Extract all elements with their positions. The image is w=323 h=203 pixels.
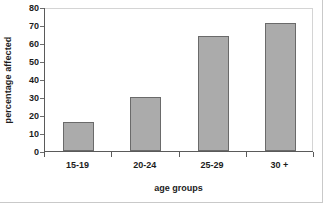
x-axis-tick-label: 20-24 <box>133 160 156 170</box>
y-axis-tick-label: 50 <box>29 57 39 67</box>
y-axis-tick-mark <box>40 8 44 9</box>
x-axis-tick-mark <box>246 152 247 157</box>
y-axis-tick-mark <box>40 44 44 45</box>
y-axis-tick-mark <box>40 80 44 81</box>
x-axis-tick-mark <box>313 152 314 157</box>
x-axis-tick-mark <box>179 152 180 157</box>
x-axis-tick-label: 25-29 <box>201 160 224 170</box>
y-axis-tick-labels: 01020304050607080 <box>16 0 42 160</box>
bar-chart: percentage affected 01020304050607080 ag… <box>0 0 323 203</box>
bar <box>198 36 229 151</box>
y-axis-tick-mark <box>40 98 44 99</box>
bar <box>265 23 296 151</box>
bar <box>63 122 94 151</box>
y-axis-tick-label: 80 <box>29 3 39 13</box>
y-axis-tick-label: 60 <box>29 39 39 49</box>
y-axis-tick-label: 30 <box>29 93 39 103</box>
y-axis-tick-mark <box>40 134 44 135</box>
x-axis-tick-label: 15-19 <box>66 160 89 170</box>
x-axis-tick-label: 30 + <box>270 160 288 170</box>
x-axis-tick-mark <box>44 152 45 157</box>
y-axis-title-label: percentage affected <box>3 37 13 124</box>
y-axis-tick-mark <box>40 62 44 63</box>
x-axis-tick-mark <box>111 152 112 157</box>
x-axis-title: age groups <box>44 183 313 193</box>
y-axis-tick-label: 20 <box>29 111 39 121</box>
y-axis-tick-mark <box>40 26 44 27</box>
y-axis-tick-label: 10 <box>29 129 39 139</box>
y-axis-tick-label: 40 <box>29 75 39 85</box>
y-axis-tick-mark <box>40 116 44 117</box>
y-axis-title: percentage affected <box>0 0 16 160</box>
plot-area <box>44 8 313 152</box>
y-axis-tick-label: 70 <box>29 21 39 31</box>
y-axis-tick-label: 0 <box>34 147 39 157</box>
bar <box>130 97 161 151</box>
